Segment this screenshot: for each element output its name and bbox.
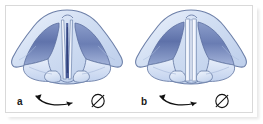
diameter-symbol-b [213,92,231,110]
panel-label-a: a [17,97,23,107]
curved-double-arrow-a [29,85,81,109]
larynx-illustration-b [133,7,249,89]
curved-double-arrow-b [153,85,205,109]
figure-root: a [0,0,263,124]
figure-panel-a: a [5,5,129,113]
larynx-illustration-a [9,7,125,89]
figure-panel-b: b [129,5,253,113]
panel-label-b: b [141,97,147,107]
diameter-symbol-a [89,92,107,110]
